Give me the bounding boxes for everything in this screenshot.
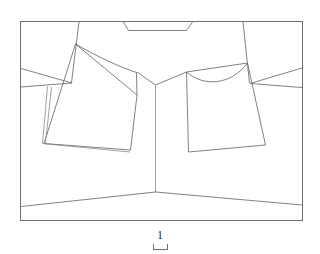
left-front-panel (44, 44, 137, 150)
bottom-hem (21, 192, 302, 207)
left-yoke-curve (76, 44, 137, 73)
left-side-seam-lower (21, 83, 72, 87)
technical-drawing (0, 0, 320, 254)
right-side-seam-upper (250, 68, 302, 84)
left-placket-hem (43, 144, 131, 153)
left-yoke-edge (137, 73, 138, 96)
figure-root: 1 (0, 0, 320, 254)
collar-band (124, 22, 193, 31)
figure-label: 1 (0, 229, 320, 242)
right-front-panel (187, 63, 266, 152)
right-shoulder-seam (243, 22, 250, 83)
left-side-seam-upper (21, 69, 72, 84)
center-v-right (156, 72, 187, 85)
center-v-left (137, 72, 156, 85)
right-side-seam-lower (250, 84, 302, 88)
right-yoke-curve (187, 63, 248, 82)
scale-bracket (153, 244, 168, 250)
